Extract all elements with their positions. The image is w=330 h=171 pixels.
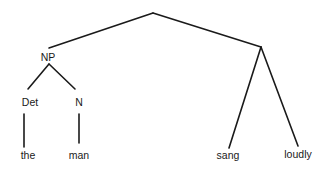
edge-root-vp: [153, 13, 261, 47]
edge-vp-sang: [229, 47, 261, 148]
leaf-loudly-label: loudly: [284, 148, 312, 160]
leaf-sang-label: sang: [217, 149, 240, 161]
node-det-label: Det: [22, 96, 38, 108]
leaf-the-label: the: [21, 149, 36, 161]
edge-vp-loudly: [261, 47, 298, 146]
node-n-label: N: [75, 96, 83, 108]
syntax-tree-diagram: NP Det N the man sang loudly: [0, 0, 330, 171]
leaf-man-label: man: [69, 149, 90, 161]
edge-root-np: [49, 13, 153, 48]
edge-np-n: [49, 64, 75, 89]
edge-np-det: [28, 64, 49, 89]
node-np-label: NP: [41, 51, 56, 63]
